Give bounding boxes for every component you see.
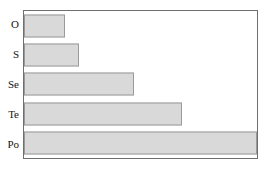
bar-row-1	[24, 40, 257, 69]
bar-po	[24, 132, 257, 155]
y-tick-label: O	[11, 19, 21, 30]
y-tick-4: Po	[0, 129, 21, 159]
bar-row-2	[24, 70, 257, 99]
bar-se	[24, 73, 134, 96]
plot-area	[24, 11, 257, 158]
bar-te	[24, 102, 182, 125]
y-tick-label: Po	[7, 139, 21, 150]
bar-o	[24, 14, 65, 37]
y-tick-label: Se	[8, 79, 21, 90]
bar-row-4	[24, 129, 257, 158]
bar-row-0	[24, 11, 257, 40]
bar-s	[24, 44, 79, 67]
y-tick-label: S	[13, 49, 21, 60]
plot-frame	[23, 10, 258, 159]
y-axis-tick-labels: O S Se Te Po	[0, 10, 21, 159]
bar-row-3	[24, 99, 257, 128]
y-tick-1: S	[0, 40, 21, 70]
y-tick-label: Te	[8, 109, 21, 120]
y-tick-3: Te	[0, 99, 21, 129]
y-tick-2: Se	[0, 70, 21, 100]
bar-chart: O S Se Te Po	[0, 0, 264, 171]
y-tick-0: O	[0, 10, 21, 40]
